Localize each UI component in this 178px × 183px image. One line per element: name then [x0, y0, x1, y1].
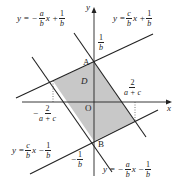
point-a-label: A	[83, 58, 90, 67]
x-tick-positive: 2a + c	[123, 78, 142, 97]
y-axis-label: y	[86, 3, 90, 12]
y-tick-negative: −1b	[71, 150, 84, 169]
equation-bottom-left: y =cbx −1b	[12, 141, 52, 160]
y-tick-positive: 1b	[97, 33, 105, 52]
origin-label: O	[85, 104, 92, 113]
point-b-label: B	[98, 140, 104, 149]
equation-top-right: y =cbx +1b	[113, 9, 153, 28]
x-axis-label: x	[167, 104, 171, 113]
y-axis-arrow	[92, 7, 97, 13]
region-d-label: D	[81, 77, 88, 86]
equation-top-left: y = −abx +1b	[17, 9, 66, 28]
x-tick-negative: −2a + c	[33, 104, 57, 123]
equation-bottom-right: y = −abx −1b	[103, 160, 152, 179]
